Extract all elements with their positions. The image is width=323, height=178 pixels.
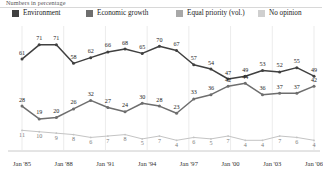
data-label: 44 [242,74,248,80]
data-label: 53 [259,61,265,67]
data-label: 19 [36,109,42,115]
data-label: 8 [124,136,127,142]
data-label: 52 [277,62,283,68]
data-label: 36 [208,85,214,91]
data-point [209,93,212,96]
data-point [261,93,264,96]
data-label: 4 [244,142,247,148]
x-tick-label: Jan '85 [13,160,31,167]
legend-label-environment: Environment [23,10,61,17]
data-label: 58 [70,54,76,60]
data-point [141,102,144,105]
data-label: 71 [36,35,42,41]
line-chart-svg: 6171715862666865706757544749535255492819… [0,26,322,156]
series-line-environment [22,45,314,79]
data-label: 62 [88,48,94,54]
data-label: 24 [122,102,128,108]
data-label: 26 [70,99,76,105]
data-label: 67 [174,41,180,47]
data-label: 6 [192,139,195,145]
data-label: 6 [295,139,298,145]
data-point [158,105,161,108]
data-label: 6 [89,139,92,145]
x-tick-label: Jan '00 [221,160,239,167]
data-point [106,106,109,109]
data-point [192,97,195,100]
data-label: 42 [311,77,317,83]
data-label: 37 [277,84,283,90]
x-tick-label: Jan '94 [138,160,156,167]
data-label: 42 [225,77,231,83]
data-label: 49 [311,67,317,73]
legend-swatch-environment [12,10,19,17]
legend-item-economic-growth: Economic growth [86,10,148,17]
data-point [244,82,247,85]
plot-area: 6171715862666865706757544749535255492819… [0,26,322,156]
data-label: 47 [225,70,231,76]
series-line-economic-growth [22,83,314,119]
legend-label-equal-priority: Equal priority (vol.) [187,10,245,17]
data-label: 20 [53,108,59,114]
data-label: 66 [105,42,111,48]
data-label: 68 [122,40,128,46]
data-label: 11 [19,132,25,138]
data-label: 27 [105,98,111,104]
series-line-no-opinion [22,130,314,140]
data-point [313,85,316,88]
data-label: 71 [53,35,59,41]
data-label: 7 [227,138,230,144]
data-label: 32 [88,91,94,97]
legend-swatch-no-opinion [258,10,265,17]
chart-legend: Environment Economic growth Equal priori… [6,10,318,24]
data-label: 54 [208,60,214,66]
data-point [278,92,281,95]
data-point [175,112,178,115]
data-point [72,62,75,65]
data-point [175,49,178,52]
data-label: 4 [312,142,315,148]
legend-item-no-opinion: No opinion [258,10,302,17]
data-point [227,85,230,88]
data-point [72,107,75,110]
data-label: 4 [175,142,178,148]
data-point [261,69,264,72]
chart-subtitle: Numbers in percentage [6,0,65,6]
data-point [278,70,281,73]
legend-label-no-opinion: No opinion [269,10,302,17]
data-label: 7 [158,138,161,144]
data-label: 49 [242,67,248,73]
data-label: 28 [19,97,25,103]
data-label: 9 [55,135,58,141]
data-label: 61 [19,50,25,56]
data-point [158,45,161,48]
data-label: 70 [156,37,162,43]
legend-item-environment: Environment [12,10,61,17]
x-tick-label: Jan '88 [55,160,73,167]
data-label: 37 [294,84,300,90]
data-point [55,43,58,46]
data-point [124,110,127,113]
data-point [209,68,212,71]
data-point [89,99,92,102]
data-point [21,105,24,108]
data-label: 65 [139,44,145,50]
data-label: 30 [139,94,145,100]
data-label: 7 [106,138,109,144]
data-label: 57 [191,55,197,61]
data-label: 7 [278,138,281,144]
data-point [89,56,92,59]
data-label: 10 [36,133,42,139]
data-point [295,92,298,95]
data-label: 28 [156,97,162,103]
data-point [55,116,58,119]
legend-swatch-equal-priority [176,10,183,17]
data-point [21,58,24,61]
top-divider [0,7,322,8]
x-tick-label: Jan '06 [305,160,323,167]
data-point [141,52,144,55]
x-tick-label: Jan '03 [263,160,281,167]
data-label: 4 [261,142,264,148]
data-label: 5 [141,140,144,146]
x-tick-label: Jan '91 [96,160,114,167]
